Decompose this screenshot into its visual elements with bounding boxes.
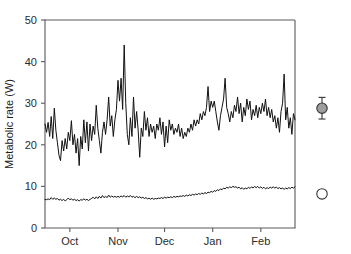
x-tick-label: Feb — [251, 235, 270, 247]
y-tick-label: 30 — [25, 97, 37, 109]
x-tick-label: Jan — [204, 235, 222, 247]
x-tick-label: Dec — [155, 235, 175, 247]
y-axis-ticks: 01020304050 — [25, 14, 45, 234]
y-axis-title: Metabolic rate (W) — [3, 79, 15, 169]
y-tick-label: 0 — [31, 222, 37, 234]
marker-mean-daily-energy-expenditure — [317, 103, 327, 113]
x-tick-label: Nov — [108, 235, 128, 247]
x-tick-label: Oct — [61, 235, 78, 247]
y-tick-label: 10 — [25, 180, 37, 192]
y-tick-label: 40 — [25, 56, 37, 68]
summary-markers — [317, 97, 327, 199]
y-tick-label: 50 — [25, 14, 37, 26]
marker-mean-basal-metabolic-rate — [317, 189, 327, 199]
figure-container: 01020304050 OctNovDecJanFeb Metabolic ra… — [0, 0, 351, 254]
x-axis-ticks: OctNovDecJanFeb — [61, 228, 270, 247]
metabolic-rate-line-chart: 01020304050 OctNovDecJanFeb Metabolic ra… — [0, 0, 351, 254]
y-tick-label: 20 — [25, 139, 37, 151]
